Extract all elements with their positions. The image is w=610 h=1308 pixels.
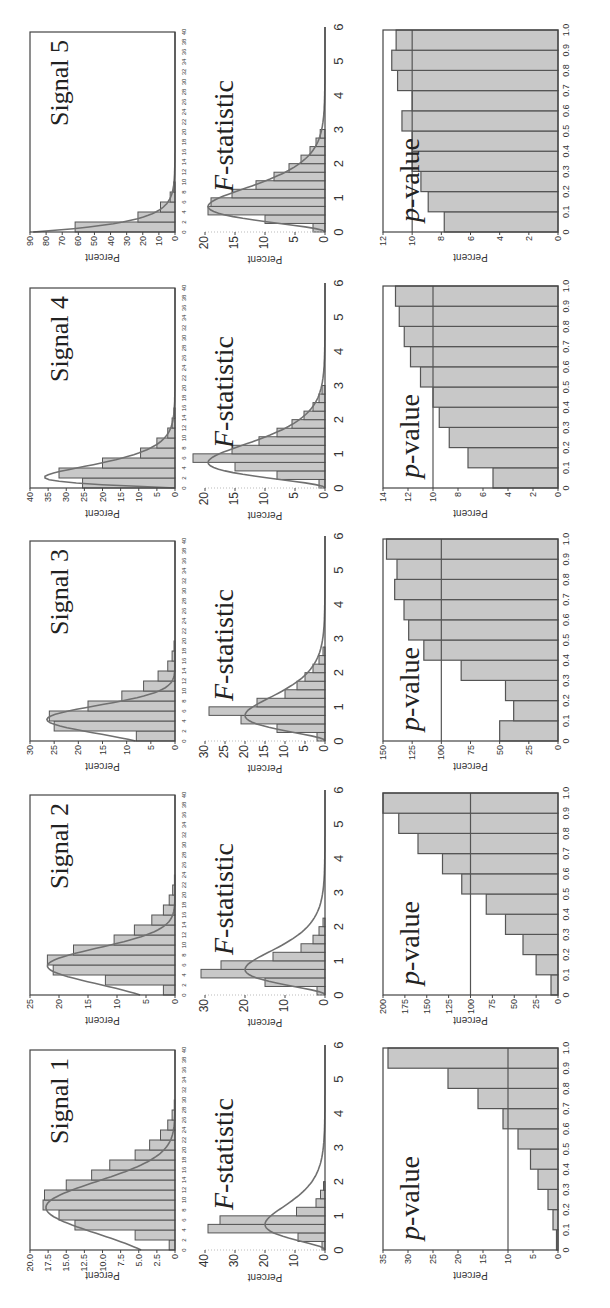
svg-text:10: 10 <box>134 492 144 502</box>
y-axis-ticks: 05101520253035 <box>378 1250 563 1264</box>
svg-text:0.6: 0.6 <box>561 361 571 374</box>
x-axis-ticks: 0246810121416182022242628303234363840 <box>181 1046 187 1252</box>
svg-text:5: 5 <box>331 567 346 574</box>
signal-3-f-statistic: 0123456051015202530PercentF-statistic <box>205 536 355 771</box>
svg-text:0: 0 <box>181 486 187 490</box>
svg-text:34: 34 <box>181 1076 187 1083</box>
svg-text:30: 30 <box>403 1254 413 1264</box>
x-axis-ticks: 00.10.20.30.40.50.60.70.80.91.0 <box>561 1042 571 1253</box>
svg-text:0.4: 0.4 <box>561 401 571 414</box>
x-axis-ticks: 0123456 <box>331 1041 346 1253</box>
svg-text:0: 0 <box>561 229 571 234</box>
svg-text:18: 18 <box>181 394 187 401</box>
svg-text:15.0: 15.0 <box>61 1254 71 1272</box>
svg-text:4: 4 <box>181 210 187 214</box>
svg-text:24: 24 <box>181 364 187 371</box>
y-axis-ticks: 024681012 <box>378 232 563 246</box>
svg-text:12: 12 <box>403 492 413 502</box>
svg-text:15: 15 <box>257 745 271 759</box>
svg-text:26: 26 <box>181 607 187 614</box>
svg-text:26: 26 <box>181 1116 187 1123</box>
svg-text:25: 25 <box>49 745 59 755</box>
svg-text:34: 34 <box>181 821 187 828</box>
svg-text:6: 6 <box>478 492 488 497</box>
chart-svg: 0123456010203040PercentF-statistic <box>205 1045 355 1280</box>
svg-text:0: 0 <box>170 1254 180 1259</box>
svg-text:0.5: 0.5 <box>561 888 571 901</box>
svg-text:20: 20 <box>181 637 187 644</box>
svg-text:20: 20 <box>181 1146 187 1153</box>
svg-text:10: 10 <box>428 492 438 502</box>
svg-text:5: 5 <box>152 492 162 497</box>
svg-text:4: 4 <box>331 855 346 862</box>
signal-2-f-statistic: 01234560102030PercentF-statistic <box>205 790 355 1025</box>
y-axis-ticks: 05101520 <box>197 232 331 249</box>
histogram-bars <box>49 641 175 741</box>
svg-text:25: 25 <box>428 1254 438 1264</box>
chart-svg: 00.10.20.30.40.50.60.70.80.91.0024681012… <box>383 27 588 262</box>
svg-text:6: 6 <box>466 236 476 241</box>
svg-text:25: 25 <box>79 492 89 502</box>
y-axis-label: Percent <box>248 254 283 265</box>
svg-text:100: 100 <box>466 999 476 1014</box>
chart-svg: 024681012141618202224262830323436384002.… <box>30 1045 205 1280</box>
svg-text:100: 100 <box>436 745 446 760</box>
svg-text:16: 16 <box>181 404 187 411</box>
svg-text:0.4: 0.4 <box>561 654 571 667</box>
signal-4-p-value: 00.10.20.30.40.50.60.70.80.91.0024681012… <box>383 283 588 518</box>
svg-text:0: 0 <box>553 492 563 497</box>
panel-title: Signal 4 <box>45 296 74 382</box>
svg-text:0.8: 0.8 <box>561 1082 571 1095</box>
chart-svg: 0246810121416182022242628303234363840051… <box>30 790 205 1025</box>
svg-text:15: 15 <box>116 492 126 502</box>
svg-text:10: 10 <box>181 1196 187 1203</box>
y-axis-ticks: 0102030 <box>197 995 331 1012</box>
svg-text:5: 5 <box>331 1076 346 1083</box>
svg-text:24: 24 <box>181 108 187 115</box>
svg-text:150: 150 <box>378 745 388 760</box>
svg-text:30: 30 <box>61 492 71 502</box>
panel-title: F-statistic <box>208 80 239 193</box>
svg-text:38: 38 <box>181 1056 187 1063</box>
svg-text:10: 10 <box>181 178 187 185</box>
figure-grid: 024681012141618202224262830323436384002.… <box>0 0 610 1308</box>
svg-text:0.7: 0.7 <box>561 84 571 97</box>
svg-text:0: 0 <box>553 1254 563 1259</box>
y-axis-label: Percent <box>248 1272 283 1283</box>
svg-text:34: 34 <box>181 58 187 65</box>
histogram-bars <box>59 408 175 488</box>
svg-text:14: 14 <box>181 1176 187 1183</box>
svg-text:22: 22 <box>181 118 187 125</box>
x-axis-ticks: 0246810121416182022242628303234363840 <box>181 28 187 234</box>
y-axis-label: Percent <box>453 252 488 263</box>
y-axis-label: Percent <box>85 1270 120 1281</box>
svg-text:30: 30 <box>197 745 211 759</box>
svg-text:0.8: 0.8 <box>561 320 571 333</box>
svg-text:0.2: 0.2 <box>561 948 571 961</box>
svg-text:6: 6 <box>331 279 346 286</box>
svg-text:0: 0 <box>561 738 571 743</box>
svg-text:2: 2 <box>181 729 187 733</box>
svg-text:18: 18 <box>181 647 187 654</box>
svg-text:2: 2 <box>331 416 346 423</box>
svg-text:0.5: 0.5 <box>561 125 571 138</box>
svg-text:6: 6 <box>331 786 346 793</box>
svg-text:30: 30 <box>122 236 132 246</box>
svg-text:20: 20 <box>181 128 187 135</box>
svg-text:26: 26 <box>181 861 187 868</box>
svg-text:125: 125 <box>444 999 454 1014</box>
svg-text:1.0: 1.0 <box>561 787 571 800</box>
svg-text:200: 200 <box>378 999 388 1014</box>
svg-text:0.8: 0.8 <box>561 573 571 586</box>
svg-text:40: 40 <box>25 492 35 502</box>
svg-text:0: 0 <box>561 485 571 490</box>
svg-text:5: 5 <box>331 58 346 65</box>
svg-text:8: 8 <box>181 446 187 450</box>
svg-text:25: 25 <box>217 745 231 759</box>
chart-svg: 00.10.20.30.40.50.60.70.80.91.0051015202… <box>383 1045 588 1280</box>
svg-text:2.5: 2.5 <box>152 1254 162 1267</box>
svg-text:8: 8 <box>453 492 463 497</box>
panel-title: p-value <box>394 394 425 480</box>
x-axis-ticks: 00.10.20.30.40.50.60.70.80.91.0 <box>561 24 571 235</box>
signal-1-f-statistic: 0123456010203040PercentF-statistic <box>205 1045 355 1280</box>
